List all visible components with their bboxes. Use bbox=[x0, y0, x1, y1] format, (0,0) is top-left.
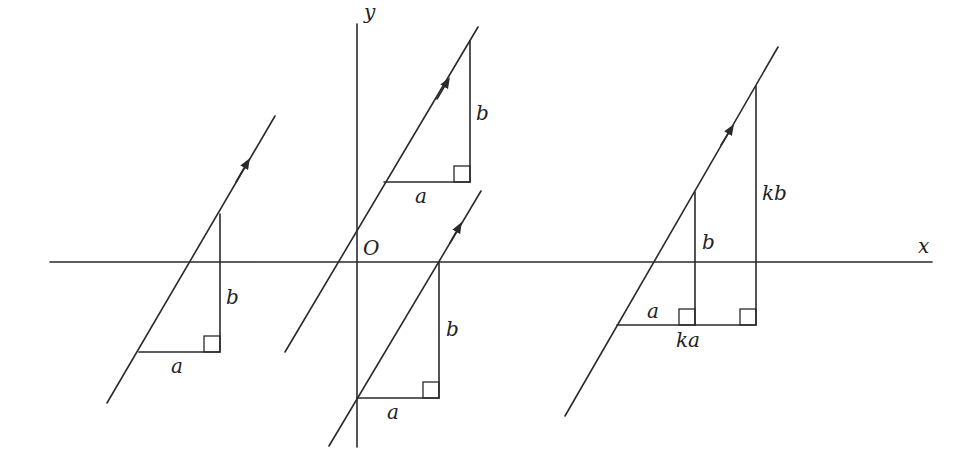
lower-right-angle-icon bbox=[423, 382, 439, 398]
left-rise-label: b bbox=[226, 287, 239, 307]
left-slope-triangle bbox=[139, 214, 220, 352]
lower-arrow-icon bbox=[450, 227, 459, 243]
lower-run-label: a bbox=[387, 402, 399, 422]
right-small-right-angle-icon bbox=[679, 309, 695, 325]
left-direction-line bbox=[107, 116, 275, 403]
x-axis-label: x bbox=[918, 236, 929, 256]
right-scaled-run-label: ka bbox=[676, 330, 700, 350]
right-direction-line bbox=[565, 47, 778, 416]
right-large-right-angle-icon bbox=[740, 309, 756, 325]
vector-diagram: x y O a b a b a b a b ka kb bbox=[0, 0, 973, 470]
diagram-canvas bbox=[0, 0, 973, 470]
left-run-label: a bbox=[171, 356, 183, 376]
upper-direction-line bbox=[285, 27, 478, 352]
left-arrow-icon bbox=[236, 163, 247, 182]
upper-run-label: a bbox=[415, 186, 427, 206]
right-scaled-rise-label: kb bbox=[762, 183, 787, 203]
right-arrow-icon bbox=[721, 129, 731, 145]
lower-rise-label: b bbox=[446, 319, 459, 339]
y-axis-label: y bbox=[364, 2, 375, 22]
right-rise-label: b bbox=[702, 232, 715, 252]
right-run-label: a bbox=[647, 301, 659, 321]
origin-label: O bbox=[363, 238, 379, 258]
left-right-angle-icon bbox=[204, 336, 220, 352]
upper-arrow-icon bbox=[437, 82, 447, 99]
upper-right-angle-icon bbox=[454, 166, 470, 182]
upper-rise-label: b bbox=[476, 103, 489, 123]
